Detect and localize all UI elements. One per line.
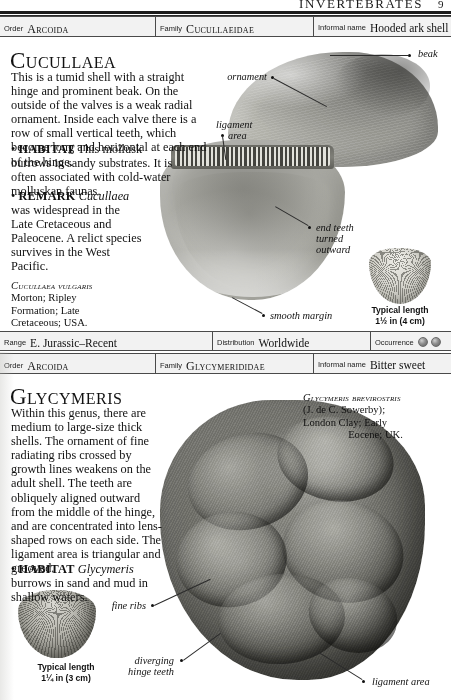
callout-ornament-label: ornament [212, 71, 267, 83]
callout-ligament-area-label-2: ligament area [372, 676, 430, 688]
specimen-line3-2: London Clay; Early [303, 417, 448, 429]
callout-end-teeth-label-2: turned [316, 233, 343, 245]
family-cell-1: Family Cucullaeidae [155, 17, 313, 36]
typical-length-value-1: 1½ in (4 cm) [360, 316, 440, 327]
description-glycymeris: Within this genus, there are medium to l… [11, 406, 163, 575]
informal-name-label-1: Informal name [318, 23, 366, 32]
callout-end-teeth-label-3: outward [316, 244, 350, 256]
shell-rating-icon [418, 337, 428, 347]
shell-rib-texture [160, 400, 425, 680]
callout-end-teeth-label-1: end teeth [316, 222, 354, 234]
habitat-genus-italic: Glycymeris [78, 562, 134, 576]
family-cell-2: Family Glycymerididae [155, 354, 313, 373]
running-head-title: INVERTEBRATES [299, 0, 423, 11]
callout-smooth-margin-label: smooth margin [270, 310, 332, 322]
distribution-label-1: Distribution [217, 338, 255, 347]
specimen-caption-glycymeris: Glycymeris brevirostris (J. de C. Sowerb… [303, 392, 448, 442]
specimen-line2-1: Morton; Ripley [11, 292, 161, 304]
callout-hinge-teeth-label-1: diverging [118, 655, 174, 667]
habitat-block-glycymeris: • HABITAT Glycymeris burrows in sand and… [11, 562, 163, 604]
photo-glycymeris-specimen [160, 400, 425, 680]
informal-name-cell-2: Informal name Bitter sweet [313, 354, 451, 373]
classification-bar-cucullaea: Order Arcoida Family Cucullaeidae Inform… [0, 16, 451, 37]
callout-ligament-area-label-2: area [228, 130, 247, 142]
informal-name-label-2: Informal name [318, 360, 366, 369]
habitat-label-1: HABITAT [18, 142, 74, 156]
range-bar-cucullaea: Range E. Jurassic–Recent Distribution Wo… [0, 331, 451, 351]
header-rule [0, 11, 451, 14]
informal-name-value-2: Bitter sweet [370, 359, 425, 371]
family-value-1: Cucullaeidae [186, 22, 254, 36]
typical-length-glycymeris: Typical length 1¼ in (3 cm) [18, 662, 114, 683]
order-label-1: Order [4, 24, 23, 33]
typical-length-value-2: 1¼ in (3 cm) [18, 673, 114, 684]
callout-beak-label: beak [418, 48, 438, 60]
shell-radial-ribs [369, 248, 431, 304]
photo-cucullaea-scale-icon [369, 248, 431, 304]
occurrence-label-1: Occurrence [375, 338, 414, 347]
range-value-1: E. Jurassic–Recent [30, 337, 117, 349]
typical-length-label-2: Typical length [18, 662, 114, 673]
remark-block-cucullaea: • REMARK Cucullaea was widespread in the… [11, 189, 144, 274]
specimen-line3-1: Formation; Late [11, 305, 161, 317]
remark-label-1: REMARK [18, 189, 75, 203]
family-label-1: Family [160, 24, 182, 33]
field-guide-page: INVERTEBRATES 9 Order Arcoida Family Cuc… [0, 0, 451, 700]
classification-bar-glycymeris: Order Arcoida Family Glycymerididae Info… [0, 353, 451, 374]
callout-ligament-area-dot-2 [362, 680, 365, 683]
order-value-2: Arcoida [27, 359, 68, 373]
callout-fine-ribs-label: fine ribs [84, 600, 146, 612]
page-number: 9 [438, 0, 445, 10]
callout-hinge-teeth-label-2: hinge teeth [118, 666, 174, 678]
typical-length-cucullaea: Typical length 1½ in (4 cm) [360, 305, 440, 326]
family-value-2: Glycymerididae [186, 359, 265, 373]
callout-ligament-area-label-1: ligament [216, 119, 252, 131]
shell-rating-icon [431, 337, 441, 347]
order-label-2: Order [4, 361, 23, 370]
distribution-cell-1: Distribution Worldwide [212, 332, 370, 350]
shell-beak-shading [333, 54, 430, 118]
informal-name-cell-1: Informal name Hooded ark shell [313, 17, 451, 36]
shell-smooth-margin [167, 249, 337, 297]
range-cell-1: Range E. Jurassic–Recent [0, 332, 212, 350]
specimen-species-1: Cucullaea vulgaris [11, 280, 161, 292]
occurrence-cell-1: Occurrence [370, 332, 451, 350]
informal-name-value-1: Hooded ark shell [370, 22, 449, 34]
range-label-1: Range [4, 338, 26, 347]
specimen-species-2: Glycymeris brevirostris [303, 392, 448, 404]
remark-text-1: was widespread in the Late Cretaceous an… [11, 203, 141, 273]
specimen-line4-2: Eocene; UK. [303, 429, 448, 441]
callout-smooth-margin-dot [262, 314, 265, 317]
distribution-value-1: Worldwide [259, 337, 310, 349]
remark-genus-italic: Cucullaea [79, 189, 130, 203]
occurrence-rating-icons [418, 337, 441, 347]
specimen-caption-cucullaea: Cucullaea vulgaris Morton; Ripley Format… [11, 280, 161, 330]
habitat-label-2: HABITAT [18, 562, 74, 576]
typical-length-label-1: Typical length [360, 305, 440, 316]
family-label-2: Family [160, 361, 182, 370]
specimen-line4-1: Cretaceous; USA. [11, 317, 161, 329]
order-cell-1: Order Arcoida [0, 17, 155, 36]
order-value-1: Arcoida [27, 22, 68, 36]
order-cell-2: Order Arcoida [0, 354, 155, 373]
specimen-line2-2: (J. de C. Sowerby); [303, 404, 448, 416]
callout-beak-leader [330, 55, 408, 56]
